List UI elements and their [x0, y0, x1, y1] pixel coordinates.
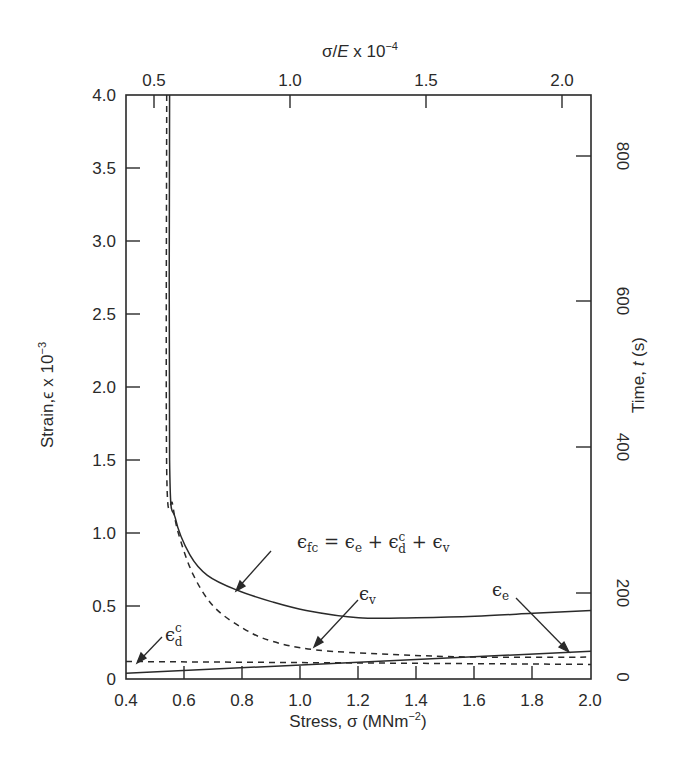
- right-tick-label: 800: [613, 142, 632, 170]
- y-tick-label: 0: [107, 670, 116, 689]
- x-tick-label: 1.6: [462, 691, 486, 710]
- right-tick-label: 0: [613, 672, 632, 681]
- y-axis-title: Strain,ϵ x 10−3: [36, 342, 57, 448]
- x-axis-ticks: 0.40.60.81.01.21.41.61.82.0: [114, 666, 602, 710]
- x-tick-label: 0.4: [114, 691, 138, 710]
- y-tick-label: 2.5: [92, 305, 116, 324]
- top-axis-title: σ/E x 10−4: [322, 40, 398, 61]
- x-tick-label: 1.4: [404, 691, 428, 710]
- x-tick-label: 1.2: [346, 691, 370, 710]
- y-tick-label: 0.5: [92, 597, 116, 616]
- right-tick-label: 200: [613, 579, 632, 607]
- total-strain-equation: ϵfc = ϵe + ϵcd + ϵv: [297, 530, 450, 556]
- right-tick-label: 400: [613, 433, 632, 461]
- top-tick-label: 2.0: [550, 71, 574, 90]
- viscous-strain-label: ϵv: [359, 583, 376, 607]
- right-axis-ticks: 0200400600800: [576, 142, 632, 682]
- right-tick-label: 600: [613, 287, 632, 315]
- top-tick-label: 1.5: [414, 71, 438, 90]
- elastic-strain-label: ϵe: [492, 579, 509, 603]
- y-tick-label: 1.5: [92, 451, 116, 470]
- top-tick-label: 0.5: [142, 71, 166, 90]
- x-tick-label: 2.0: [578, 691, 602, 710]
- x-tick-label: 1.0: [288, 691, 312, 710]
- annotation-arrows: [137, 551, 569, 663]
- x-tick-label: 1.8: [520, 691, 544, 710]
- y-tick-label: 3.0: [92, 232, 116, 251]
- strain-stress-chart: 0.40.60.81.01.21.41.61.82.0 00.51.01.52.…: [0, 0, 679, 783]
- x-tick-label: 0.8: [230, 691, 254, 710]
- y-tick-label: 3.5: [92, 159, 116, 178]
- delayed-elastic-strain-label: ϵcd: [165, 621, 183, 649]
- y-axis-ticks: 00.51.01.52.02.53.03.54.0: [92, 86, 140, 689]
- y-tick-label: 4.0: [92, 86, 116, 105]
- x-axis-title: Stress, σ (MNm−2): [289, 710, 426, 731]
- x-tick-label: 0.6: [172, 691, 196, 710]
- y-tick-label: 1.0: [92, 524, 116, 543]
- y-tick-label: 2.0: [92, 378, 116, 397]
- series-line: [166, 95, 591, 657]
- top-tick-label: 1.0: [278, 71, 302, 90]
- top-axis-ticks: 0.51.01.52.0: [142, 71, 574, 108]
- right-axis-title: Time, t (s): [629, 337, 648, 413]
